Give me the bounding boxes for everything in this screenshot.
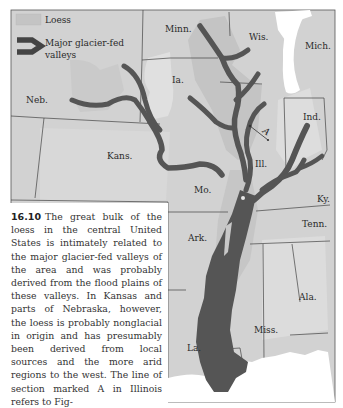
legend-loess-label: Loess bbox=[45, 15, 71, 25]
figure-caption-text: The great bulk of the loess in the centr… bbox=[11, 211, 162, 407]
state-label-mo: Mo. bbox=[194, 185, 211, 195]
state-label-kans: Kans. bbox=[107, 151, 133, 161]
state-label-minn: Minn. bbox=[165, 24, 192, 34]
valley-island-2 bbox=[241, 196, 245, 200]
state-label-ia: Ia. bbox=[172, 75, 184, 85]
loess-swatch bbox=[16, 14, 41, 25]
state-label-tenn: Tenn. bbox=[302, 219, 327, 229]
state-label-ala: Ala. bbox=[298, 292, 317, 302]
figure-number: 16.10 bbox=[11, 211, 41, 222]
legend-valley-label-2: valleys bbox=[44, 50, 77, 60]
state-label-mich: Mich. bbox=[305, 41, 331, 51]
state-label-neb: Neb. bbox=[26, 95, 48, 105]
state-label-ark: Ark. bbox=[187, 233, 207, 243]
kansas-light-area bbox=[40, 128, 170, 204]
state-label-ind: Ind. bbox=[303, 112, 321, 122]
state-label-miss: Miss. bbox=[254, 325, 278, 335]
state-label-la: La. bbox=[187, 343, 201, 353]
state-label-wis: Wis. bbox=[249, 32, 269, 42]
state-label-ky: Ky. bbox=[317, 194, 330, 204]
legend-valley-label-1: Major glacier-fed bbox=[45, 38, 124, 48]
figure-caption: 16.10The great bulk of the loess in the … bbox=[11, 210, 162, 408]
state-label-ill: Ill. bbox=[255, 159, 267, 169]
